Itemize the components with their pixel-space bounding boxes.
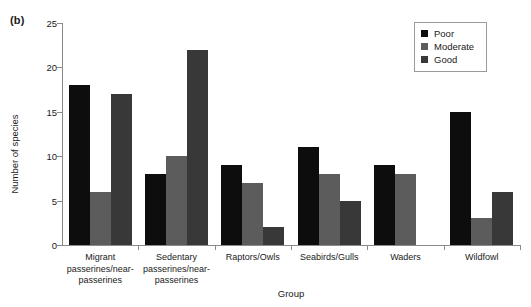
- bar: [69, 85, 90, 245]
- bar: [145, 174, 166, 245]
- legend-item: Good: [421, 53, 474, 66]
- bar: [319, 174, 340, 245]
- x-category-label-line: Waders: [367, 252, 443, 264]
- bar-group: [291, 23, 367, 245]
- y-tick-label: 5: [52, 195, 57, 206]
- bar: [242, 183, 263, 245]
- x-category-label: Seabirds/Gulls: [291, 252, 367, 264]
- panel-label: (b): [10, 14, 25, 26]
- x-tick-mark: [291, 245, 292, 250]
- y-tick-label: 20: [46, 62, 57, 73]
- x-category-label-line: passerines/near-: [62, 264, 138, 276]
- x-category-label: Migrantpasserines/near-passerines: [62, 252, 138, 287]
- x-category-label-line: passerines/near-: [138, 264, 214, 276]
- bar-group: [62, 23, 138, 245]
- x-axis-title: Group: [62, 288, 520, 299]
- chart-legend: PoorModerateGood: [414, 22, 487, 72]
- bar-group: [138, 23, 214, 245]
- bar: [166, 156, 187, 245]
- y-axis-title: Number of species: [9, 114, 20, 193]
- x-category-label-line: passerines: [62, 275, 138, 287]
- legend-swatch-icon: [421, 56, 428, 63]
- legend-item: Moderate: [421, 40, 474, 53]
- x-category-label: Raptors/Owls: [215, 252, 291, 264]
- bar: [221, 165, 242, 245]
- bar: [340, 201, 361, 245]
- x-category-label-line: Sedentary: [138, 252, 214, 264]
- legend-label: Moderate: [434, 41, 474, 52]
- figure-panel-b: (b) Number of species Group 0510152025 M…: [0, 0, 531, 307]
- x-category-label-line: Raptors/Owls: [215, 252, 291, 264]
- bar: [450, 112, 471, 245]
- x-category-label-line: Migrant: [62, 252, 138, 264]
- x-tick-mark: [215, 245, 216, 250]
- x-tick-mark: [138, 245, 139, 250]
- y-tick-mark: [57, 245, 62, 246]
- x-category-label: Waders: [367, 252, 443, 264]
- bar: [374, 165, 395, 245]
- bar: [90, 192, 111, 245]
- x-tick-mark: [444, 245, 445, 250]
- bar-group: [215, 23, 291, 245]
- x-category-label-line: Wildfowl: [444, 252, 520, 264]
- legend-item: Poor: [421, 27, 474, 40]
- x-category-label: Sedentarypasserines/near-passerines: [138, 252, 214, 287]
- bar: [471, 218, 492, 245]
- y-tick-label: 0: [52, 240, 57, 251]
- x-tick-mark: [367, 245, 368, 250]
- bar: [395, 174, 416, 245]
- x-category-label-line: Seabirds/Gulls: [291, 252, 367, 264]
- bar: [187, 50, 208, 245]
- y-tick-label: 10: [46, 151, 57, 162]
- bar: [492, 192, 513, 245]
- x-category-label: Wildfowl: [444, 252, 520, 264]
- legend-swatch-icon: [421, 43, 428, 50]
- bar: [298, 147, 319, 245]
- x-tick-mark: [520, 245, 521, 250]
- legend-label: Good: [434, 54, 457, 65]
- bar: [111, 94, 132, 245]
- y-tick-label: 15: [46, 106, 57, 117]
- y-tick-label: 25: [46, 18, 57, 29]
- x-category-label-line: passerines: [138, 275, 214, 287]
- legend-swatch-icon: [421, 30, 428, 37]
- bar: [263, 227, 284, 245]
- legend-label: Poor: [434, 28, 454, 39]
